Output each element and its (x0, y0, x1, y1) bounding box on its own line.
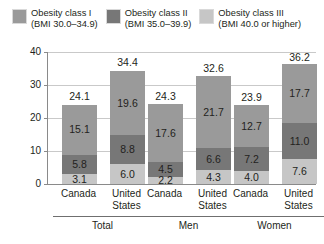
x-axis-group-label: Women (225, 220, 324, 231)
bar-segment-value: 2.2 (158, 175, 173, 186)
bar-total-value: 23.9 (234, 92, 269, 103)
legend-label-line1: Obesity class III (218, 8, 301, 19)
x-axis-category-label: UnitedStates (276, 188, 322, 211)
legend-label: Obesity class I(BMI 30.0–34.9) (31, 8, 98, 30)
x-axis-category-label: Canada (228, 188, 274, 200)
y-tick-mark (44, 184, 48, 185)
group-separator-rule (225, 216, 324, 217)
bar-segment: 15.1 (62, 105, 97, 155)
stacked-bar: 19.68.86.0 (110, 71, 145, 185)
legend-label-line2: (BMI 35.0–39.9) (125, 19, 192, 30)
bar-total-value: 36.2 (282, 52, 317, 63)
legend-item: Obesity class II(BMI 35.0–39.9) (106, 8, 192, 30)
stacked-bar: 15.15.83.1 (62, 105, 97, 184)
stacked-bar: 17.64.52.2 (148, 104, 183, 184)
y-gridline (48, 85, 316, 86)
bar-total-value: 24.1 (62, 91, 97, 102)
bar-segment: 4.3 (196, 170, 231, 184)
bar-segment-value: 11.0 (290, 136, 310, 147)
y-tick-label: 0 (35, 179, 41, 189)
y-tick-mark (44, 52, 48, 53)
legend-label-line2: (BMI 40.0 or higher) (218, 19, 301, 30)
bar-segment-value: 19.6 (117, 98, 137, 109)
legend-item: Obesity class I(BMI 30.0–34.9) (12, 8, 98, 30)
legend-swatch-icon (199, 9, 214, 24)
y-tick-mark (44, 151, 48, 152)
bar-segment-value: 15.1 (69, 124, 89, 135)
category-line1: Canada (228, 188, 274, 200)
bar-segment-value: 4.3 (206, 172, 221, 183)
stacked-bar: 12.77.24.0 (234, 105, 269, 184)
bar-segment-value: 7.6 (292, 166, 307, 177)
bar-segment-value: 17.7 (289, 88, 309, 99)
bar-segment: 17.7 (282, 64, 317, 122)
y-tick-mark (44, 118, 48, 119)
y-tick-label: 40 (30, 47, 41, 57)
plot-area: 01020304015.15.83.124.119.68.86.034.417.… (47, 52, 316, 185)
bar-segment-value: 3.1 (72, 174, 87, 185)
category-line2: States (190, 200, 236, 212)
bar-segment-value: 6.0 (120, 169, 135, 180)
legend-label: Obesity class II(BMI 35.0–39.9) (125, 8, 192, 30)
bar-segment: 8.8 (110, 135, 145, 164)
bar-segment-value: 12.7 (241, 121, 261, 132)
y-tick-mark (44, 85, 48, 86)
bar-segment: 7.2 (234, 147, 269, 171)
bar-segment: 6.6 (196, 148, 231, 170)
category-line1: Canada (56, 188, 102, 200)
bar-segment: 3.1 (62, 174, 97, 184)
bar-segment: 2.2 (148, 177, 183, 184)
stacked-bar: 17.711.07.6 (282, 64, 317, 184)
bar-segment: 6.0 (110, 164, 145, 184)
x-axis-group-label: Total (53, 220, 152, 231)
bar-segment-value: 17.6 (155, 128, 175, 139)
y-gridline (48, 52, 316, 53)
bar-segment: 5.8 (62, 155, 97, 174)
y-tick-label: 10 (30, 146, 41, 156)
bar-segment: 17.6 (148, 104, 183, 162)
chart-legend: Obesity class I(BMI 30.0–34.9)Obesity cl… (12, 8, 312, 38)
bar-total-value: 32.6 (196, 63, 231, 74)
category-line1: Canada (142, 188, 188, 200)
legend-label-line1: Obesity class I (31, 8, 98, 19)
bar-segment-value: 7.2 (244, 154, 259, 165)
legend-swatch-icon (106, 9, 121, 24)
stacked-bar: 21.76.64.3 (196, 76, 231, 184)
bar-segment: 11.0 (282, 123, 317, 159)
bar-segment-value: 21.7 (203, 107, 223, 118)
bar-total-value: 24.3 (148, 91, 183, 102)
category-line2: States (276, 200, 322, 212)
legend-item: Obesity class III(BMI 40.0 or higher) (199, 8, 301, 30)
bar-total-value: 34.4 (110, 57, 145, 68)
x-axis-category-label: Canada (142, 188, 188, 200)
legend-label: Obesity class III(BMI 40.0 or higher) (218, 8, 301, 30)
category-line1: United (276, 188, 322, 200)
y-tick-label: 20 (30, 113, 41, 123)
legend-swatch-icon (12, 9, 27, 24)
x-axis-group-label: Men (139, 220, 238, 231)
bar-segment: 19.6 (110, 71, 145, 136)
bar-segment: 12.7 (234, 105, 269, 147)
bar-segment-value: 8.8 (120, 144, 135, 155)
category-line2: States (104, 200, 150, 212)
group-separator-rule (139, 216, 238, 217)
legend-label-line1: Obesity class II (125, 8, 192, 19)
bar-segment-value: 4.0 (244, 172, 259, 183)
y-tick-label: 30 (30, 80, 41, 90)
bar-segment: 21.7 (196, 76, 231, 148)
bar-segment-value: 5.8 (72, 159, 87, 170)
legend-label-line2: (BMI 30.0–34.9) (31, 19, 98, 30)
bar-segment: 4.0 (234, 171, 269, 184)
bar-segment-value: 6.6 (206, 154, 221, 165)
group-separator-rule (53, 216, 152, 217)
bar-segment: 7.6 (282, 159, 317, 184)
x-axis-category-label: Canada (56, 188, 102, 200)
bar-segment-value: 4.5 (158, 164, 173, 175)
